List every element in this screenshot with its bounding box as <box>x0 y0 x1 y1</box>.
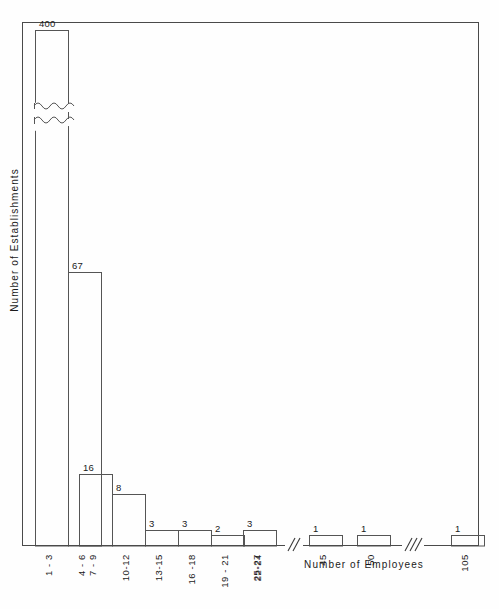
x-tick-label: 1 - 3 <box>43 554 54 576</box>
x-tick-label: 10-12 <box>120 554 131 581</box>
value-labels-group: 400671683323111 <box>39 18 460 534</box>
bar-19-21 <box>212 536 245 547</box>
bar-50 <box>358 536 391 547</box>
x-tick-label: 105 <box>459 554 470 572</box>
x-axis-title: Number of Employees <box>304 559 424 570</box>
x-tick-label: 16 -18 <box>186 554 197 585</box>
bars-group <box>36 31 485 547</box>
bar-value-label: 3 <box>247 518 252 529</box>
bar-value-label: 67 <box>72 260 83 271</box>
bar-45 <box>310 536 343 547</box>
x-tick-label: 13-15 <box>153 554 164 581</box>
chart-page: 400671683323111 1 - 34 - 67 - 910-1213-1… <box>0 0 499 609</box>
bar-25-27 <box>244 531 277 547</box>
bar-value-label: 400 <box>39 18 55 29</box>
bar-105 <box>452 536 485 547</box>
x-tick-label: 19 - 21 <box>219 554 230 588</box>
bar-value-label: 1 <box>313 523 318 534</box>
bar-13-15 <box>146 531 179 547</box>
bar-value-label: 3 <box>182 518 187 529</box>
bar-value-label: 16 <box>83 462 94 473</box>
bar-value-label: 3 <box>149 518 154 529</box>
bar-4-6 <box>69 273 102 547</box>
x-axis-break-mark-1 <box>285 538 303 551</box>
bar-value-label: 2 <box>215 523 220 534</box>
bar-16-18 <box>179 531 212 547</box>
y-axis-break-wave <box>34 98 74 131</box>
bar-10-12 <box>113 495 146 547</box>
x-tick-label: 25-27 <box>251 554 262 581</box>
x-tick-label: 4 - 6 <box>76 554 87 576</box>
x-axis-break-mark-2 <box>402 538 424 551</box>
x-tick-label: 7 - 9 <box>87 554 98 576</box>
bar-value-label: 8 <box>116 482 121 493</box>
histogram-figure: 400671683323111 1 - 34 - 67 - 910-1213-1… <box>0 0 499 609</box>
bar-value-label: 1 <box>455 523 460 534</box>
bar-value-label: 1 <box>361 523 366 534</box>
bar-7-9 <box>80 475 113 547</box>
y-axis-title: Number of Establishments <box>9 168 20 312</box>
